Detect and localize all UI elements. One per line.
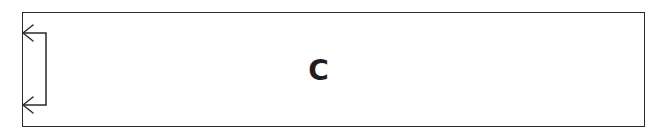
diagram: C	[0, 0, 659, 136]
feedback-loop-arrow-icon	[0, 0, 659, 136]
